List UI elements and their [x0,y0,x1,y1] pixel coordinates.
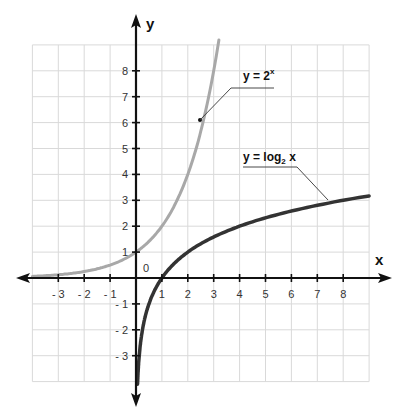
x-tick-label: - 2 [78,288,91,300]
log-callout-leader [243,167,328,200]
y-tick-label: - 3 [115,350,128,362]
y-tick-label: 4 [122,168,128,180]
x-tick-label: 3 [211,288,217,300]
axes [16,14,392,407]
x-tick-label: 4 [237,288,243,300]
y-tick-label: 3 [122,194,128,206]
y-tick-label: 6 [122,117,128,129]
function-graph: - 3- 2- 112345678- 3- 2- 112345678 x y 0… [0,0,400,415]
x-tick-label: 8 [340,288,346,300]
x-tick-label: 6 [288,288,294,300]
y-tick-label: 2 [122,220,128,232]
tick-labels: - 3- 2- 112345678- 3- 2- 112345678 [52,65,346,362]
y-tick-label: - 1 [115,298,128,310]
tick-marks [58,71,343,356]
exp-equation-label: y = 2x [243,67,275,83]
curves [32,40,369,384]
log-equation-label: y = log2 x [243,150,296,166]
x-tick-label: 5 [262,288,268,300]
y-axis-label: y [146,15,155,32]
exp-callout-leader [200,88,274,120]
y-tick-label: 1 [122,246,128,258]
y-tick-label: 7 [122,91,128,103]
grid-lines [32,45,369,382]
x-tick-label: 1 [159,288,165,300]
x-tick-label: - 3 [52,288,65,300]
y-tick-label: 5 [122,143,128,155]
x-tick-label: 2 [185,288,191,300]
origin-label: 0 [143,262,149,274]
y-tick-label: - 2 [115,324,128,336]
x-tick-label: 7 [314,288,320,300]
log-callout: y = log2 x [243,150,328,200]
y-tick-label: 8 [122,65,128,77]
x-axis-label: x [375,251,384,268]
